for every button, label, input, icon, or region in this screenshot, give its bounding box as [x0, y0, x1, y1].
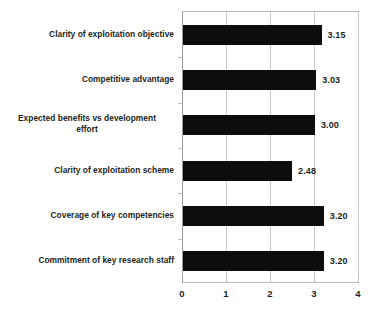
y-axis-tick [178, 193, 182, 194]
bar [183, 115, 315, 135]
category-label-line: effort [2, 124, 172, 135]
bar [183, 25, 322, 45]
category-label-column: Clarity of exploitation objectiveCompeti… [0, 11, 178, 283]
gridline-1 [226, 12, 227, 282]
bar-value-label: 3.20 [330, 256, 348, 266]
y-axis-tick [178, 148, 182, 149]
category-label-line: Clarity of exploitation scheme [0, 164, 174, 175]
x-axis-tick [358, 272, 359, 276]
category-label: Commitment of key research staff [0, 255, 174, 266]
category-label: Clarity of exploitation objective [0, 28, 174, 39]
bar-value-label: 3.20 [330, 211, 348, 221]
category-label: Expected benefits vs developmenteffort [2, 113, 172, 135]
category-label-line: Coverage of key competencies [0, 210, 174, 221]
x-axis-tick-label: 2 [267, 288, 272, 299]
x-axis-tick [182, 272, 183, 276]
category-label-line: Commitment of key research staff [0, 255, 174, 266]
x-axis-tick-label: 0 [179, 288, 184, 299]
plot-area: 3.153.033.002.483.203.20 [182, 11, 359, 283]
bar [183, 161, 292, 181]
gridline-4 [358, 12, 359, 282]
y-axis-tick [178, 103, 182, 104]
gridline-2 [270, 12, 271, 282]
bar-value-label: 3.00 [321, 120, 339, 130]
y-axis-tick [178, 57, 182, 58]
x-axis-tick [314, 272, 315, 276]
category-label-line: Expected benefits vs development [2, 113, 172, 124]
category-label-line: Competitive advantage [0, 74, 174, 85]
x-axis-tick-labels: 01234 [182, 288, 359, 308]
x-axis-tick [270, 272, 271, 276]
y-axis-tick [178, 239, 182, 240]
category-label: Clarity of exploitation scheme [0, 164, 174, 175]
bar-value-label: 3.15 [328, 30, 346, 40]
x-axis-tick-label: 1 [223, 288, 228, 299]
y-axis-line [182, 12, 183, 282]
bar [183, 70, 316, 90]
x-axis-tick [226, 272, 227, 276]
category-label: Coverage of key competencies [0, 210, 174, 221]
x-axis-tick-label: 3 [311, 288, 316, 299]
bar-value-label: 3.03 [322, 75, 340, 85]
bar-value-label: 2.48 [298, 166, 316, 176]
x-axis-tick-label: 4 [355, 288, 360, 299]
category-label: Competitive advantage [0, 74, 174, 85]
bar-chart: Clarity of exploitation objectiveCompeti… [0, 0, 380, 318]
bar [183, 206, 324, 226]
category-label-line: Clarity of exploitation objective [0, 28, 174, 39]
gridline-3 [314, 12, 315, 282]
bar [183, 251, 324, 271]
